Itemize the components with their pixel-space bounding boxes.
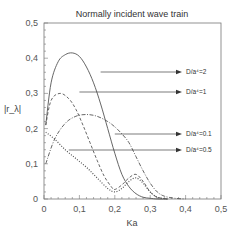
arrow-head-icon bbox=[176, 70, 182, 74]
series-lines bbox=[46, 53, 186, 199]
x-tick-label: 0,2 bbox=[109, 204, 122, 214]
series-line bbox=[46, 93, 168, 199]
x-axis-tick-labels: 00,10,20,30,40,5 bbox=[41, 204, 227, 214]
legend-label: D/a⁴=0.5 bbox=[186, 146, 212, 153]
x-tick-label: 0,4 bbox=[179, 204, 192, 214]
y-tick-label: 0 bbox=[33, 194, 38, 204]
reflection-coefficient-chart: Normally incident wave train 00,10,20,30… bbox=[0, 0, 228, 235]
x-tick-label: 0 bbox=[41, 204, 46, 214]
x-tick-label: 0,3 bbox=[144, 204, 157, 214]
x-tick-label: 0,1 bbox=[73, 204, 86, 214]
y-tick-label: 0,5 bbox=[25, 18, 38, 28]
chart-title: Normally incident wave train bbox=[76, 9, 189, 19]
series-line bbox=[46, 53, 168, 199]
y-axis-tick-labels: 00,10,20,30,40,5 bbox=[25, 18, 38, 204]
y-tick-label: 0,4 bbox=[25, 53, 38, 63]
arrow-head-icon bbox=[176, 90, 182, 94]
x-axis-label: Ka bbox=[126, 218, 137, 228]
arrow-head-icon bbox=[176, 148, 182, 152]
plot-frame bbox=[44, 23, 221, 199]
legend-label: D/a⁴=2 bbox=[186, 68, 207, 75]
legend-label: D/a⁴=1 bbox=[186, 88, 207, 95]
arrow-head-icon bbox=[176, 132, 182, 136]
legend-annotations: D/a⁴=2D/a⁴=1D/a⁴=0.1D/a⁴=0.5 bbox=[69, 68, 212, 153]
legend-label: D/a⁴=0.1 bbox=[186, 130, 212, 137]
y-tick-label: 0,2 bbox=[25, 124, 38, 134]
axis-ticks bbox=[44, 23, 221, 199]
x-tick-label: 0,5 bbox=[215, 204, 228, 214]
y-tick-label: 0,1 bbox=[25, 159, 38, 169]
y-tick-label: 0,3 bbox=[25, 88, 38, 98]
y-axis-label: |r_λ| bbox=[4, 104, 21, 114]
series-line bbox=[46, 132, 168, 199]
